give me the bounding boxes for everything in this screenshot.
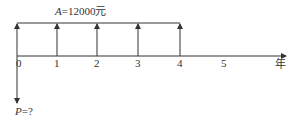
tick-label-1: 1 (54, 57, 60, 69)
tick-label-2: 2 (94, 57, 100, 69)
tick-label-4: 4 (177, 57, 183, 69)
annuity-arrows (17, 24, 180, 56)
tick-label-0: 0 (16, 57, 22, 69)
present-value-label: P=? (14, 105, 33, 117)
axis-unit-label: 年 (275, 57, 286, 70)
tick-label-5: 5 (221, 57, 227, 69)
annuity-label: A=12000元 (54, 5, 106, 17)
cash-flow-diagram: A=12000元 0 1 2 3 4 5 年 P=? (0, 0, 296, 125)
tick-label-3: 3 (135, 57, 141, 69)
